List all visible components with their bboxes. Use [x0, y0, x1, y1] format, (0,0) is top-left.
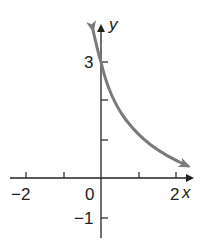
y-axis-label: y: [108, 15, 119, 34]
x-axis-label: x: [181, 183, 191, 202]
y-tick-label-neg1: −1: [74, 209, 93, 228]
exponential-curve: [93, 30, 188, 166]
x-tick-label-2: 2: [170, 185, 179, 204]
graph-canvas: y 3 −2 0 2 x −1: [0, 0, 204, 249]
x-tick-label-0: 0: [85, 185, 94, 204]
x-tick-label-neg2: −2: [11, 185, 30, 204]
y-tick-label-3: 3: [84, 53, 93, 72]
